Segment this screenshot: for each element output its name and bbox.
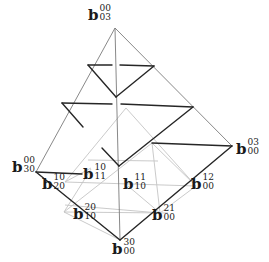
label-b00-30: b3000: [112, 240, 135, 258]
label-b10-11: b1110: [123, 175, 146, 193]
diagram-lines: [0, 0, 269, 262]
label-b00-21: b2100: [152, 206, 175, 224]
bezier-tetrahedron-diagram: b0003 b0030 b1011 b0300 b1020 b1110 b120…: [0, 0, 269, 262]
label-b11-10: b1011: [83, 165, 106, 183]
label-b20-10: b1020: [42, 175, 65, 193]
outer-edge-lines: [36, 28, 232, 240]
label-b30-00: b0030: [12, 158, 35, 176]
label-b03-00: b0003: [88, 6, 111, 24]
label-b00-12: b1200: [191, 175, 214, 193]
label-b00-03: b0300: [236, 140, 259, 158]
bold-lines: [36, 65, 232, 240]
label-b10-20: b2010: [73, 205, 96, 223]
